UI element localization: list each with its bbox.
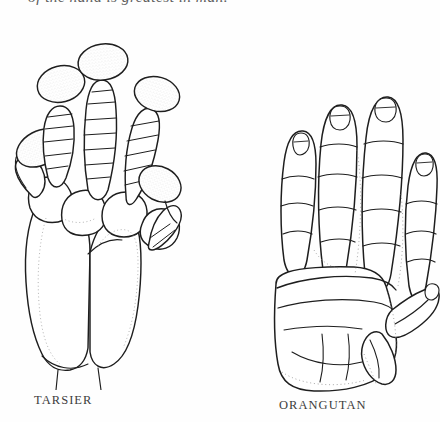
caption-tarsier: TARSIER — [34, 393, 92, 408]
caption-orangutan: ORANGUTAN — [279, 398, 367, 413]
figure-plate: TARSIER ORANGUTAN — [0, 0, 440, 422]
tarsier-hand-illustration — [2, 38, 182, 390]
orangutan-hand-illustration — [262, 34, 440, 394]
